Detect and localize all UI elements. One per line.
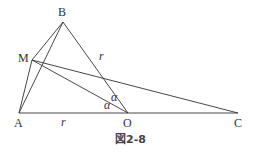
label-alpha-upper: α xyxy=(111,90,118,104)
geometry-figure: B M A O C r r α α 図2-8 xyxy=(0,0,258,156)
segment-BO xyxy=(63,22,128,113)
segment-AM xyxy=(19,60,32,113)
label-C: C xyxy=(234,116,242,130)
segment-MC xyxy=(32,60,238,113)
label-B: B xyxy=(58,5,66,19)
label-r-AO: r xyxy=(61,115,66,129)
label-A: A xyxy=(14,116,23,130)
label-O: O xyxy=(123,116,132,130)
segment-MO xyxy=(32,60,128,113)
figure-caption: 図2-8 xyxy=(115,132,146,146)
label-r-BO: r xyxy=(99,49,104,63)
segment-AB xyxy=(19,22,63,113)
label-alpha-lower: α xyxy=(104,98,111,112)
label-M: M xyxy=(18,51,29,65)
